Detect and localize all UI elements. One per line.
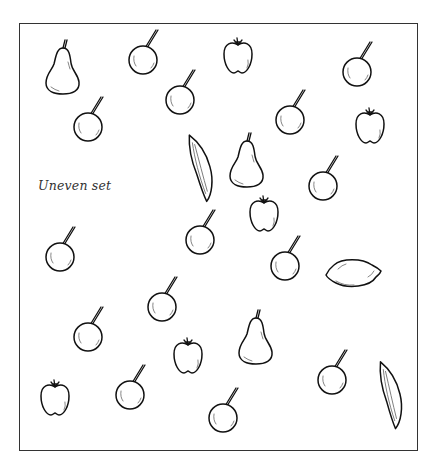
apple-icon	[174, 338, 202, 373]
apple-icon	[250, 196, 278, 231]
apple-icon	[356, 108, 384, 143]
cherry-icon	[276, 90, 305, 134]
cherry-icon	[74, 97, 103, 141]
cherry-icon	[116, 365, 145, 409]
cherry-icon	[318, 350, 347, 394]
cherry-icon	[166, 70, 195, 114]
cherry-icon	[271, 236, 300, 280]
pear-icon	[239, 310, 272, 364]
pear-icon	[230, 133, 263, 187]
cherry-icon	[129, 30, 158, 74]
cherry-icon	[343, 42, 372, 86]
apple-icon	[224, 38, 252, 73]
cherry-icon	[148, 277, 177, 321]
fruit-illustration	[0, 0, 440, 466]
apple-icon	[41, 380, 69, 415]
cherry-icon	[209, 388, 238, 432]
cherry-icon	[46, 227, 75, 271]
pod-icon	[188, 133, 215, 203]
cherry-icon	[74, 307, 103, 351]
cherry-icon	[309, 156, 338, 200]
cherry-icon	[186, 210, 215, 254]
pod-icon	[379, 360, 404, 429]
lemon-icon	[326, 260, 381, 287]
pear-icon	[46, 40, 79, 94]
